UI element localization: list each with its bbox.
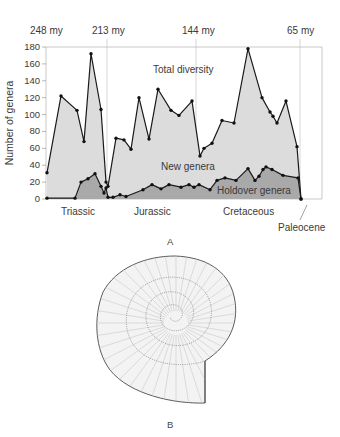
time-label-248: 248 my [30, 25, 63, 36]
ammonite-illustration [86, 233, 266, 413]
y-axis-label: Number of genera [3, 81, 15, 166]
y-tick-label: 60 [18, 142, 40, 153]
y-tick-label: 0 [18, 193, 40, 204]
y-tick-label: 180 [18, 41, 40, 52]
period-label-paleocene: Paleocene [278, 222, 325, 233]
y-tick-label: 160 [18, 58, 40, 69]
y-tick-label: 80 [18, 125, 40, 136]
time-label-65: 65 my [287, 25, 314, 36]
period-label-jurassic: Jurassic [134, 206, 171, 217]
panel-a-caption: A [167, 236, 173, 247]
y-tick-label: 100 [18, 109, 40, 120]
y-tick-label: 140 [18, 75, 40, 86]
annotation-holdover-genera: Holdover genera [217, 185, 291, 196]
y-tick-label: 120 [18, 92, 40, 103]
period-label-triassic: Triassic [61, 206, 95, 217]
annotation-total-diversity: Total diversity [153, 64, 214, 75]
annotation-new-genera: New genera [161, 161, 215, 172]
paleocene-pointer [300, 205, 307, 220]
y-tick-label: 40 [18, 159, 40, 170]
y-axis-ticks [42, 47, 46, 199]
y-tick-label: 20 [18, 176, 40, 187]
time-label-144: 144 my [182, 25, 215, 36]
period-label-cretaceous: Cretaceous [223, 206, 274, 217]
time-label-213: 213 my [92, 25, 125, 36]
panel-b-caption: B [167, 419, 173, 430]
